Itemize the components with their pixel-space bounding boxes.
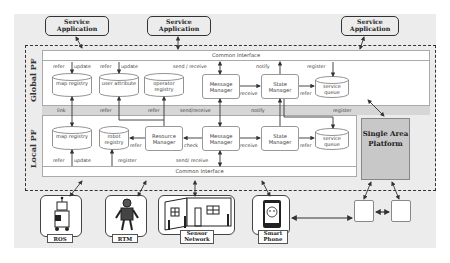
- label-link: link: [57, 108, 65, 113]
- area-platform-node-2: [391, 200, 411, 222]
- label-receive: receive: [240, 91, 258, 96]
- service-application-3: Service Application: [341, 16, 399, 36]
- label-refer: refer: [100, 64, 111, 69]
- label-refer: refer: [130, 143, 141, 148]
- room-sensor-icon: [159, 196, 236, 234]
- label-notify: notify: [256, 64, 270, 69]
- label-register: register: [307, 64, 326, 69]
- service-application-label: Service Application: [159, 18, 199, 32]
- smartphone-icon: [253, 196, 291, 234]
- component-label: service queue: [315, 128, 349, 147]
- device-ros-label: ROS: [47, 234, 73, 243]
- local-map-registry: map registry: [52, 126, 92, 150]
- label-notify: notify: [251, 108, 265, 113]
- label-check: check: [184, 143, 198, 148]
- global-operator-registry: operator registry: [144, 73, 184, 97]
- label-refer: refer: [100, 108, 111, 113]
- global-message-manager: Message Manager: [202, 74, 240, 99]
- label-receive: receive: [240, 143, 258, 148]
- device-rtm-label: RTM: [112, 234, 138, 243]
- humanoid-robot-icon: [106, 196, 148, 236]
- area-platform-node-1: [354, 200, 374, 222]
- service-application-label: Service Application: [350, 18, 390, 32]
- device-ros: [40, 195, 82, 237]
- label-update: update: [74, 64, 91, 69]
- service-application-2: Service Application: [147, 16, 211, 36]
- global-map-registry: map registry: [52, 73, 92, 97]
- label-refer: refer: [148, 108, 159, 113]
- local-resource-manager: Resource Manager: [145, 126, 183, 151]
- label-register: register: [333, 108, 352, 113]
- component-label: robot registry: [99, 126, 129, 145]
- component-label: map registry: [52, 73, 92, 87]
- component-label: user attribute: [99, 73, 139, 87]
- local-state-manager: State Manager: [261, 126, 299, 151]
- device-smart-phone-label: Smart Phone: [258, 230, 288, 244]
- label-update: update: [74, 158, 91, 163]
- label-refer: refer: [300, 143, 311, 148]
- label-send-receive: send/receive: [180, 108, 211, 113]
- service-application-1: Service Application: [45, 16, 109, 36]
- label-update: update: [121, 64, 138, 69]
- device-sensor-network-label: Sensor Network: [180, 230, 214, 244]
- local-common-interface: Common Interface: [42, 166, 357, 177]
- single-area-platform-label: Single Area Platform: [363, 129, 408, 148]
- single-area-platform: Single Area Platform: [361, 118, 410, 180]
- component-label: operator registry: [144, 73, 184, 92]
- local-robot-registry: robot registry: [99, 126, 129, 150]
- global-state-manager: State Manager: [261, 74, 299, 99]
- label-refer: refer: [53, 158, 64, 163]
- device-rtm: [105, 195, 147, 237]
- global-pf-label: Global PF: [27, 50, 39, 110]
- label-send-receive: send / receive: [173, 64, 207, 69]
- local-service-queue: service queue: [315, 128, 349, 150]
- label-register: register: [118, 158, 137, 163]
- label-refer: refer: [53, 64, 64, 69]
- global-service-queue: service queue: [315, 76, 349, 98]
- component-label: service queue: [315, 76, 349, 95]
- global-common-interface: Common Interface: [42, 50, 430, 61]
- service-application-label: Service Application: [57, 18, 97, 32]
- device-sensor-network: [158, 195, 235, 235]
- robot-icon: [41, 196, 83, 236]
- component-label: map registry: [52, 126, 92, 140]
- device-smart-phone: [252, 195, 290, 235]
- label-refer: refer: [300, 91, 311, 96]
- global-user-attribute: user attribute: [99, 73, 139, 97]
- label-send-receive: send/ receive: [176, 158, 208, 163]
- local-message-manager: Message Manager: [202, 126, 240, 151]
- local-pf-label: Local PF: [27, 118, 39, 180]
